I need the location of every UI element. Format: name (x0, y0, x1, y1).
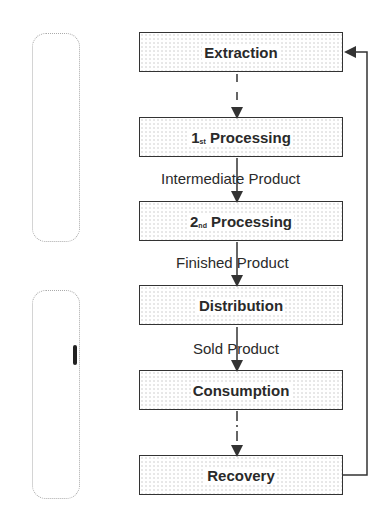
node-recovery: Recovery (139, 455, 343, 495)
node-consumption: Consumption (139, 370, 343, 410)
edge-label-sold: Sold Product (193, 340, 279, 357)
edge-label-intermediate: Intermediate Product (161, 170, 300, 187)
node-label: Distribution (197, 297, 285, 314)
node-extraction: Extraction (139, 32, 343, 72)
node-label-wrap: 1st Processing (189, 129, 293, 146)
node-label: Processing (210, 129, 291, 146)
node-label: Recovery (205, 467, 277, 484)
edge-label-finished: Finished Product (176, 254, 289, 271)
ordinal-number: 1 (191, 129, 199, 146)
node-processing1: 1st Processing (139, 117, 343, 157)
node-label: Processing (211, 213, 292, 230)
node-distribution: Distribution (139, 285, 343, 325)
ordinal-suffix: st (200, 138, 206, 145)
node-label-wrap: 2nd Processing (188, 213, 294, 230)
ordinal-suffix: nd (198, 222, 207, 229)
node-processing2: 2nd Processing (139, 201, 343, 241)
node-label: Consumption (191, 382, 292, 399)
node-label: Extraction (202, 44, 279, 61)
